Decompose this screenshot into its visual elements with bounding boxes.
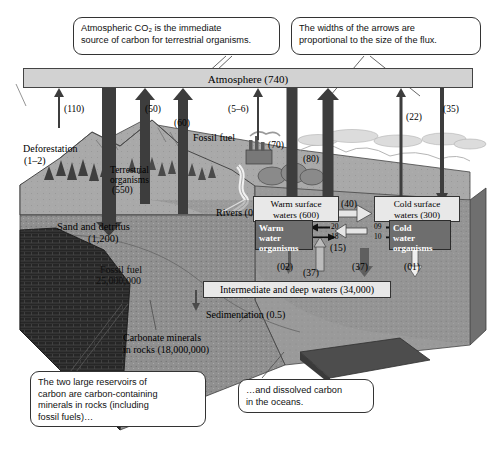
callout-co2: Atmospheric CO₂ is the immediate source … xyxy=(73,17,280,55)
box-cold-surface-line1: Cold surface xyxy=(375,199,459,210)
box-warm-org-line3: organisms xyxy=(259,243,309,253)
flux-label-37-upwell: (37) xyxy=(303,268,319,279)
callout-reservoirs-line1: The two large reservoirs of xyxy=(38,377,198,389)
flux-arrow-ocean-outgas-warm xyxy=(316,88,340,210)
flux-arrow-photosynthesis-uptake xyxy=(96,88,122,236)
flux-label-37-down: (37) xyxy=(352,262,368,273)
atmosphere-bar: Atmosphere (740) xyxy=(23,68,473,88)
flux-arrow-fossil-fuel-burning xyxy=(251,88,265,140)
callout-dissolved-line2: in the oceans. xyxy=(246,397,366,409)
flux-label-110: (110) xyxy=(64,104,84,115)
label-fossil-fuel-surface: Fossil fuel xyxy=(193,133,235,144)
box-warm-surface-waters: Warm surface waters (600) xyxy=(253,196,339,222)
label-carbonate-1: Carbonate minerals xyxy=(123,333,201,344)
box-warm-surface-line1: Warm surface xyxy=(254,199,338,210)
callout-reservoirs-line4: fossil fuels)… xyxy=(38,412,198,424)
flux-label-40: (40) xyxy=(341,199,357,210)
box-warm-surface-line2: waters (600) xyxy=(254,210,338,221)
flux-label-60: (60) xyxy=(174,118,190,129)
callout-reservoirs-line3: minerals in rocks (including xyxy=(38,400,198,412)
label-fossil-fuel-reservoir-2: 25,000,000 xyxy=(96,276,141,287)
label-fossil-fuel-reservoir-1: Fossil fuel xyxy=(100,265,142,276)
flux-arrow-cold-outgas xyxy=(394,88,408,204)
flux-label-01: (01) xyxy=(404,262,420,273)
label-carbonate-2: in rocks (18,000,000) xyxy=(123,345,209,356)
box-cold-org-line1: Cold xyxy=(393,223,447,233)
flux-label-70: (70) xyxy=(268,140,284,151)
flux-label-80: (80) xyxy=(303,154,319,165)
carbon-cycle-diagram: Atmosphere (740) xyxy=(0,0,490,449)
label-sand-detritus-1: Sand and detritus xyxy=(57,222,130,233)
box-cold-surface-waters: Cold surface waters (300) xyxy=(374,196,460,222)
box-cold-water-organisms: Cold water organisms xyxy=(389,220,451,250)
callout-co2-line2: source of carbon for terrestrial organis… xyxy=(81,35,272,47)
box-cold-surface-line2: waters (300) xyxy=(375,210,459,221)
box-intermediate-deep-waters: Intermediate and deep waters (34,000) xyxy=(203,281,391,298)
flux-label-warm-org-in: 20 xyxy=(331,222,339,233)
box-cold-org-line2: water xyxy=(393,233,447,243)
flux-label-02: (02) xyxy=(277,262,293,273)
flux-label-35: (35) xyxy=(443,104,459,115)
flux-label-22: (22) xyxy=(406,112,422,123)
box-warm-org-line1: Warm xyxy=(259,223,309,233)
label-terrestrial-organisms-2: organisms xyxy=(110,175,149,186)
box-deep-waters-label: Intermediate and deep waters (34,000) xyxy=(220,284,374,295)
callout-dissolved-carbon: …and dissolved carbon in the oceans. xyxy=(238,379,374,413)
flux-arrow-decomposition xyxy=(172,88,194,214)
label-deforestation: Deforestation xyxy=(23,144,77,155)
callout-widths-line1: The widths of the arrows are xyxy=(299,23,473,35)
label-deforestation-value: (1–2) xyxy=(24,156,46,167)
label-sand-detritus-2: (1,200) xyxy=(88,234,119,245)
label-sedimentation: Sedimentation (0.5) xyxy=(206,310,285,321)
flux-label-cold-org-out: 10 xyxy=(374,232,382,243)
callout-co2-line1: Atmospheric CO₂ is the immediate xyxy=(81,23,272,35)
flux-label-5-6: (5–6) xyxy=(228,104,249,115)
flux-label-15: (15) xyxy=(330,243,346,254)
box-cold-org-line3: organisms xyxy=(393,243,447,253)
callout-reservoirs-line2: carbon are carbon-containing xyxy=(38,389,198,401)
callout-reservoirs: The two large reservoirs of carbon are c… xyxy=(30,371,206,427)
box-warm-org-line2: water xyxy=(259,233,309,243)
flux-label-50: (50) xyxy=(145,104,161,115)
atmosphere-label: Atmosphere (740) xyxy=(24,73,472,85)
flux-label-cold-org-in: 09 xyxy=(374,222,382,233)
label-terrestrial-organisms-3: (550) xyxy=(112,185,133,196)
callout-dissolved-line1: …and dissolved carbon xyxy=(246,385,366,397)
callout-arrow-widths: The widths of the arrows are proportiona… xyxy=(291,17,481,55)
callout-widths-line2: proportional to the size of the flux. xyxy=(299,35,473,47)
flux-label-warm-org-out: 18 xyxy=(331,232,339,243)
label-terrestrial-organisms-1: Terrestrial xyxy=(110,165,149,176)
box-warm-water-organisms: Warm water organisms xyxy=(255,220,313,250)
